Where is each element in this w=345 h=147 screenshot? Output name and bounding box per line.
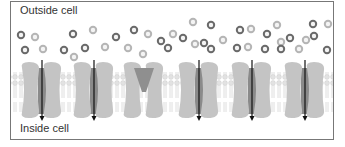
ion-dark [324, 47, 330, 53]
ion-light [125, 45, 131, 51]
ion-light [90, 27, 96, 33]
ion-dark [165, 45, 171, 51]
ion-dark [82, 45, 88, 51]
outside-cell-label: Outside cell [20, 4, 77, 16]
ion-dark [208, 46, 214, 52]
ion-dark [237, 27, 243, 33]
ion-light [245, 44, 251, 50]
ion-light [296, 46, 302, 52]
ion-light [71, 54, 77, 60]
ion-dark [113, 34, 119, 40]
ion-light [190, 19, 196, 25]
ion-light [40, 46, 46, 52]
ions [18, 19, 331, 60]
ion-dark [158, 38, 164, 44]
ion-dark [310, 21, 316, 27]
ion-light [274, 22, 280, 28]
ion-dark [131, 27, 137, 33]
ion-dark [262, 46, 268, 52]
ion-light [32, 34, 38, 40]
channel-open [285, 62, 324, 118]
ion-light [192, 41, 198, 47]
ion-light [248, 26, 254, 32]
ion-dark [180, 35, 186, 41]
ion-dark [70, 31, 76, 37]
channel-open [74, 62, 113, 118]
ion-light [102, 44, 108, 50]
ion-light [170, 31, 176, 37]
ion-dark [311, 33, 317, 39]
ion-dark [287, 35, 293, 41]
ion-dark [201, 40, 207, 46]
ion-light [140, 51, 146, 57]
channel-open [22, 62, 61, 118]
ion-light [145, 31, 151, 37]
channel-open [179, 62, 218, 118]
ion-light [303, 37, 309, 43]
ion-light [278, 39, 284, 45]
ion-dark [264, 31, 270, 37]
ion-dark [61, 47, 67, 53]
ion-dark [234, 45, 240, 51]
ion-light [220, 37, 226, 43]
ion-dark [278, 46, 284, 52]
channel-open [232, 62, 271, 118]
ion-light [325, 21, 331, 27]
ion-dark [18, 32, 24, 38]
ion-dark [22, 47, 28, 53]
ion-dark [208, 22, 214, 28]
inside-cell-label: Inside cell [20, 122, 69, 134]
